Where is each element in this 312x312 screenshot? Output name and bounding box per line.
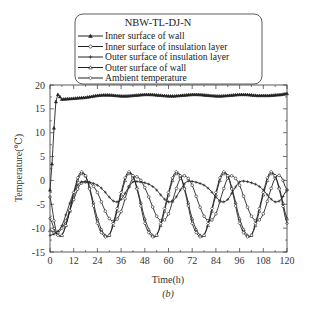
x-tick-label: 120 [280,255,295,266]
y-tick-label: 10 [35,127,45,138]
y-tick-label: -5 [37,199,45,210]
x-tick-label: 0 [48,255,53,266]
x-tick-label: 72 [187,255,197,266]
legend-label: Inner surface of insulation layer [105,41,228,52]
x-tick-label: 108 [256,255,271,266]
legend-label: Ambient temperature [105,72,187,83]
x-axis-label: Time(h) [152,274,184,286]
y-tick-label: 0 [40,175,45,186]
series-outer-surface-of-insulation-layer [49,180,289,237]
y-tick-label: 15 [35,103,45,114]
legend-title: NBW-TL-DJ-N [125,17,192,28]
y-tick-label: 20 [35,80,45,91]
x-tick-label: 48 [140,255,150,266]
legend-label: Outer surface of insulation layer [105,51,230,62]
x-tick-label: 12 [69,255,79,266]
figure-caption: (b) [162,288,174,300]
chart-figure: 01224364860728496108120-15-10-505101520 … [0,0,312,312]
y-axis-label: Temperature(℃) [13,134,25,202]
legend-label: Outer surface of wall [105,62,187,73]
y-tick-label: -10 [32,223,45,234]
y-tick-label: 5 [40,151,45,162]
x-tick-label: 96 [235,255,245,266]
y-tick-label: -15 [32,247,45,258]
x-tick-label: 36 [116,255,126,266]
axes: 01224364860728496108120-15-10-505101520 [32,80,295,267]
plot-area [49,92,289,238]
x-tick-label: 60 [164,255,174,266]
legend: NBW-TL-DJ-NInner surface of wallInner su… [75,14,262,84]
x-tick-label: 24 [92,255,102,266]
legend-label: Inner surface of wall [105,30,185,41]
x-tick-label: 84 [211,255,221,266]
plot-frame [50,85,287,252]
series-ambient-temperature [49,170,289,238]
